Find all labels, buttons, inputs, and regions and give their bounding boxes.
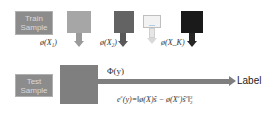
test-sample-label-line1: Test [20,77,47,86]
train-sample-label-line2: Sample [20,23,47,32]
eq-body: ‖ø(X)ŝ − ø(X [137,95,178,104]
eq-lhs-arg: (y)= [123,95,137,104]
train-feature-k-box [181,11,203,33]
train-feature-1-label: ø(X₁) [40,38,57,47]
train-feature-2-box [114,11,134,33]
test-feature-box [60,65,98,104]
test-sample-label-line2: Sample [20,86,47,95]
test-sample-box: Test Sample [15,74,53,97]
error-equation: ec(y)=‖ø(X)ŝ − ø(Xc)ŝc‖22 [117,94,193,105]
output-label: Label [237,75,261,86]
train-feature-ellipsis-box: ... [143,15,161,28]
eq-norm-sub: 2 [190,100,193,105]
train-feature-1-box [67,11,91,33]
test-feature-label: Φ(y) [107,66,124,76]
train-sample-box: Train Sample [15,11,53,35]
train-feature-2-label: ø(X₂) [100,38,117,47]
train-feature-k-label: ø(X_K) [161,38,185,47]
train-sample-label-line1: Train [20,14,47,23]
